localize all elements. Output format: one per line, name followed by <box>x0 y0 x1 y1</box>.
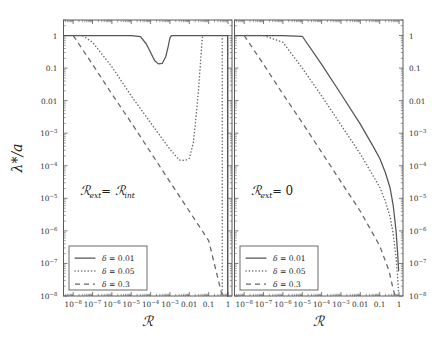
panel-annotation-right: ℛext = 0 <box>251 183 294 200</box>
tick-label: 1 <box>409 32 414 41</box>
tick-label: 10−7 <box>40 258 58 268</box>
tick-label: 0.01 <box>409 97 425 106</box>
tick-label: 0.01 <box>41 97 57 106</box>
tick-label: 10−4 <box>313 299 331 309</box>
legend-label-2: δ = 0.3 <box>273 280 301 289</box>
legend-label-2: δ = 0.3 <box>102 280 130 289</box>
legend-label-0: δ = 0.01 <box>273 254 306 263</box>
loglog-figure: 10−810−710−610−510−410−30.010.1110.10.01… <box>0 0 443 342</box>
x-axis-title-right: ℛ <box>313 313 325 329</box>
panel-right: 10−810−710−610−510−410−30.010.1110.10.01… <box>235 20 427 309</box>
tick-label: 1 <box>226 300 231 309</box>
tick-label: 0.1 <box>374 300 386 309</box>
tick-label: 0.1 <box>203 300 215 309</box>
tick-label: 10−6 <box>103 299 121 309</box>
tick-label: 10−7 <box>255 299 273 309</box>
tick-label: 10−4 <box>409 161 427 171</box>
tick-label: 10−5 <box>409 193 427 203</box>
figure-container: 10−810−710−610−510−410−30.010.1110.10.01… <box>0 0 443 342</box>
tick-label: 0.1 <box>409 64 421 73</box>
tick-label: 10−8 <box>409 291 427 301</box>
tick-label: 10−8 <box>40 291 58 301</box>
tick-label: 10−6 <box>40 226 58 236</box>
legend-label-1: δ = 0.05 <box>273 267 306 276</box>
tick-label: 0.01 <box>352 300 368 309</box>
tick-label: 0.1 <box>46 64 58 73</box>
panel-annotation-left: ℛext = ℛint <box>80 183 136 200</box>
legend-label-1: δ = 0.05 <box>102 267 135 276</box>
x-axis-title-left: ℛ <box>142 313 154 329</box>
tick-label: 10−5 <box>123 299 141 309</box>
tick-label: 10−8 <box>65 299 83 309</box>
tick-label: 10−7 <box>409 258 427 268</box>
curve-left-1 <box>73 36 203 161</box>
y-axis-title: λ*/a <box>9 144 25 174</box>
tick-label: 10−3 <box>409 128 427 138</box>
tick-label: 10−8 <box>236 299 254 309</box>
tick-label: 1 <box>53 32 58 41</box>
tick-label: 0.01 <box>181 300 197 309</box>
tick-label: 10−5 <box>40 193 58 203</box>
legend-left: δ = 0.01δ = 0.05δ = 0.3 <box>69 246 147 290</box>
tick-label: 10−5 <box>294 299 312 309</box>
tick-label: 10−7 <box>84 299 102 309</box>
tick-label: 10−3 <box>332 299 350 309</box>
panel-left: 10−810−710−610−510−410−30.010.1110.10.01… <box>40 20 232 309</box>
tick-label: 10−3 <box>40 128 58 138</box>
legend-label-0: δ = 0.01 <box>102 254 135 263</box>
tick-label: 1 <box>397 300 402 309</box>
tick-label: 10−3 <box>161 299 179 309</box>
tick-label: 10−4 <box>40 161 58 171</box>
tick-label: 10−4 <box>142 299 160 309</box>
tick-label: 10−6 <box>274 299 292 309</box>
legend-right: δ = 0.01δ = 0.05δ = 0.3 <box>240 246 318 290</box>
tick-label: 10−6 <box>409 226 427 236</box>
